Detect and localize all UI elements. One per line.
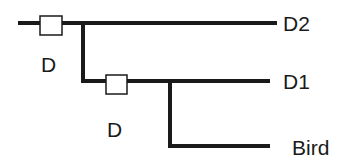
leaf-label-bird: Bird [292,137,329,158]
duplication-box-2 [106,75,127,94]
event-label-2: D [107,119,122,140]
leaf-label-d2: D2 [283,13,310,34]
duplication-box-1 [40,16,62,35]
leaf-label-d1: D1 [283,71,310,92]
event-label-1: D [41,54,56,75]
